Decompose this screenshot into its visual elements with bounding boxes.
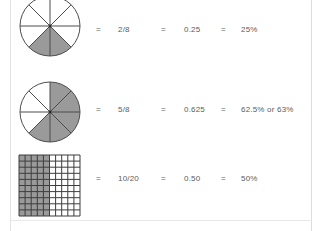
fraction-value: 2/8: [118, 24, 130, 36]
decimal-value: 0.50: [184, 173, 200, 185]
equals-sign-3: =: [221, 24, 226, 36]
equivalence-expression: = 10/20 = 0.50 = 50%: [0, 173, 324, 189]
equals-sign-1: =: [96, 104, 101, 116]
equivalence-row: = 2/8 = 0.25 = 25%: [0, 0, 324, 72]
equals-sign-3: =: [221, 104, 226, 116]
equals-sign-2: =: [161, 173, 166, 185]
equals-sign-3: =: [221, 173, 226, 185]
percent-value: 62.5% or 63%: [241, 104, 294, 116]
percent-value: 50%: [241, 173, 258, 185]
fraction-value: 5/8: [118, 104, 130, 116]
decimal-value: 0.25: [184, 24, 200, 36]
equivalence-row: = 5/8 = 0.625 = 62.5% or 63%: [0, 78, 324, 150]
decimal-value: 0.625: [184, 104, 205, 116]
worksheet-page: = 2/8 = 0.25 = 25%: [0, 0, 324, 231]
equivalence-row: = 10/20 = 0.50 = 50%: [0, 152, 324, 222]
equals-sign-2: =: [161, 24, 166, 36]
equivalence-expression: = 5/8 = 0.625 = 62.5% or 63%: [0, 104, 324, 120]
fraction-value: 10/20: [118, 173, 139, 185]
equals-sign-1: =: [96, 173, 101, 185]
equivalence-expression: = 2/8 = 0.25 = 25%: [0, 24, 324, 40]
percent-value: 25%: [241, 24, 258, 36]
equals-sign-1: =: [96, 24, 101, 36]
equals-sign-2: =: [161, 104, 166, 116]
